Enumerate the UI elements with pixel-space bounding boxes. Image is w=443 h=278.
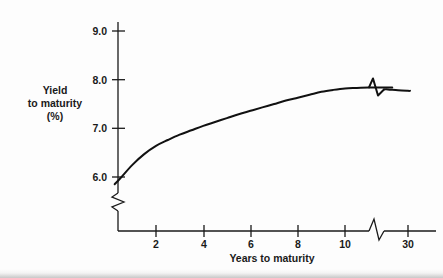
x-tick-label-6: 6	[248, 238, 254, 250]
x-tick-label-2: 2	[153, 238, 159, 250]
y-tick-label-9: 9.0	[92, 25, 107, 37]
y-tick-label-8: 8.0	[92, 74, 107, 86]
x-tick-label-10: 10	[339, 238, 351, 250]
y-tick-label-7: 7.0	[92, 122, 107, 134]
x-tick-label-8: 8	[295, 238, 301, 250]
yield-curve-line-left	[115, 87, 393, 184]
y-axis-title-line-3: (%)	[47, 110, 63, 122]
y-axis-title-line-1: Yield	[43, 84, 68, 96]
yield-curve-line-right	[384, 89, 410, 91]
y-axis-title-line-2: to maturity	[28, 97, 82, 109]
chart-figure: 9.0 8.0 7.0 6.0 Yield to maturity (%) 2 …	[0, 0, 443, 278]
y-axis-break-icon	[112, 193, 124, 211]
x-axis-title: Years to maturity	[229, 252, 314, 264]
x-axis-break-icon	[369, 219, 384, 240]
y-tick-label-6: 6.0	[92, 171, 107, 183]
x-tick-label-4: 4	[201, 238, 207, 250]
yield-curve-chart: 9.0 8.0 7.0 6.0 Yield to maturity (%) 2 …	[0, 0, 443, 278]
x-tick-label-30: 30	[402, 238, 414, 250]
